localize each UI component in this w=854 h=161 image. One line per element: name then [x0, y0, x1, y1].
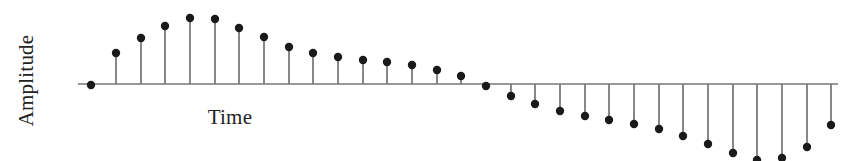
- stem-marker: [729, 149, 737, 157]
- stem-marker: [309, 49, 317, 57]
- stem-marker: [630, 120, 638, 128]
- stem-marker: [359, 56, 367, 64]
- stem-marker: [556, 107, 564, 115]
- stem-marker: [679, 132, 687, 140]
- stems-group: [91, 18, 831, 160]
- stem-marker: [211, 15, 219, 23]
- stem-marker: [605, 116, 613, 124]
- stem-marker: [531, 100, 539, 108]
- stem-plot-figure: Amplitude Time: [0, 0, 854, 161]
- y-axis-label: Amplitude: [0, 0, 52, 161]
- stem-marker: [260, 33, 268, 41]
- x-axis-label: Time: [178, 101, 282, 133]
- stem-marker: [334, 53, 342, 61]
- markers-group: [87, 14, 835, 161]
- stem-marker: [457, 72, 465, 80]
- stem-marker: [112, 49, 120, 57]
- stem-marker: [433, 66, 441, 74]
- stem-marker: [827, 121, 835, 129]
- stem-marker: [778, 154, 786, 161]
- stem-marker: [408, 61, 416, 69]
- stem-marker: [383, 58, 391, 66]
- stem-marker: [581, 112, 589, 120]
- stem-marker: [655, 125, 663, 133]
- stem-marker: [507, 92, 515, 100]
- stem-marker: [482, 82, 490, 90]
- stem-marker: [137, 34, 145, 42]
- stem-marker: [803, 143, 811, 151]
- stem-marker: [753, 156, 761, 161]
- stem-plot-canvas: [0, 0, 854, 161]
- stem-marker: [87, 81, 95, 89]
- stem-marker: [161, 22, 169, 30]
- stem-marker: [186, 14, 194, 22]
- stem-marker: [235, 24, 243, 32]
- stem-marker: [704, 140, 712, 148]
- stem-marker: [285, 43, 293, 51]
